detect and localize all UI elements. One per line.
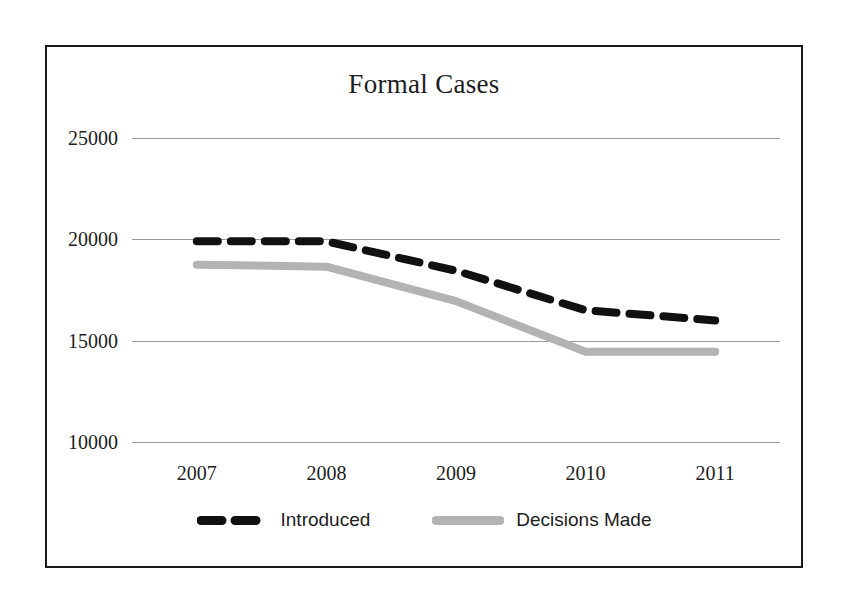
x-axis-labels: 20072008200920102011 [132,462,780,492]
y-axis-tick-label: 15000 [68,329,118,352]
series-line-decisions-made [197,265,715,352]
x-axis-tick-label: 2007 [177,462,217,485]
legend-label: Decisions Made [516,509,651,531]
series-line-introduced [197,241,715,320]
y-axis-tick-label: 10000 [68,431,118,454]
legend-label: Introduced [281,509,371,531]
chart-title: Formal Cases [47,69,801,100]
x-axis-tick-label: 2010 [566,462,606,485]
series-layer [132,133,780,447]
x-axis-tick-label: 2009 [436,462,476,485]
plot-area: 25000200001500010000 [132,133,780,447]
page-root: Formal Cases 25000200001500010000 200720… [0,0,847,603]
chart-frame: Formal Cases 25000200001500010000 200720… [45,45,803,568]
y-axis-tick-label: 20000 [68,228,118,251]
x-axis-tick-label: 2008 [306,462,346,485]
chart-legend: IntroducedDecisions Made [47,509,801,531]
legend-item[interactable]: Decisions Made [432,509,651,531]
solid-line-swatch [432,516,504,525]
dashed-line-swatch [197,516,269,525]
legend-item[interactable]: Introduced [197,509,371,531]
y-axis-tick-label: 25000 [68,127,118,150]
x-axis-tick-label: 2011 [696,462,735,485]
